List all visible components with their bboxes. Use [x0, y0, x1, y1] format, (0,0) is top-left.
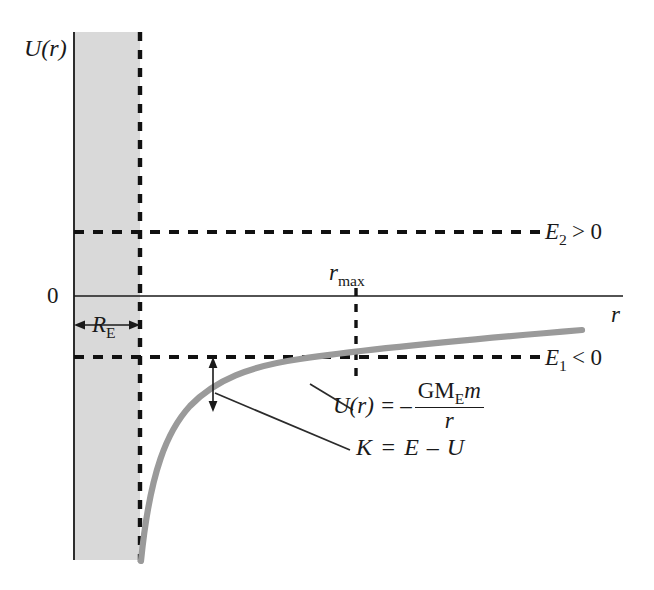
e1-symbol: E [545, 345, 559, 370]
e2-subscript: 2 [559, 231, 567, 248]
e1-relation: < 0 [572, 345, 602, 370]
r-max-symbol: r [329, 260, 338, 285]
formula-earth-mass: M [434, 378, 454, 403]
e2-relation: > 0 [572, 219, 602, 244]
e2-symbol: E [545, 219, 559, 244]
earth-radius-subscript: E [106, 324, 116, 341]
origin-zero-label: 0 [47, 284, 59, 307]
r-max-subscript: max [338, 272, 365, 289]
earth-radius-label: RE [92, 313, 116, 340]
earth-radius-symbol: R [92, 312, 106, 337]
potential-energy-formula: U(r) = – GMEm r [333, 379, 484, 432]
formula-object-mass: m [464, 378, 481, 403]
e1-subscript: 1 [559, 357, 567, 374]
r-axis-label: r [611, 303, 620, 326]
formula-minus-sign: – [400, 394, 412, 417]
r-max-label: rmax [329, 261, 365, 288]
formula-denominator: r [415, 407, 484, 432]
formula-gravitational-constant: G [418, 378, 435, 403]
formula-fraction: GMEm r [415, 379, 484, 432]
formula-numerator: GMEm [415, 379, 484, 407]
u-axis-label: U(r) [24, 36, 67, 60]
energy-level-e1-label: E1< 0 [545, 346, 602, 373]
potential-energy-diagram: U(r) 0 r rmax RE E2> 0 E1< 0 U(r) = – GM… [0, 0, 654, 590]
kinetic-energy-label: K = E – U [356, 435, 465, 459]
energy-level-e2-label: E2> 0 [545, 220, 602, 247]
formula-earth-mass-subscript: E [455, 390, 465, 407]
formula-lhs: U(r) = [333, 394, 395, 417]
diagram-canvas [0, 0, 654, 590]
kinetic-energy-leader-line [215, 393, 350, 450]
